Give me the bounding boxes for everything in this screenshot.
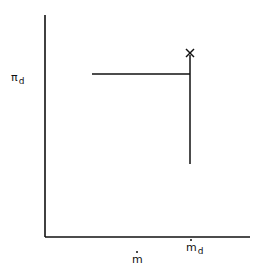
x-axis-label: m bbox=[132, 254, 143, 265]
x-tick-symbol: m bbox=[186, 242, 197, 253]
y-axis-symbol: π bbox=[11, 71, 18, 84]
diagram-canvas bbox=[0, 0, 260, 275]
x-tick-subscript: d bbox=[198, 246, 204, 256]
y-axis-subscript: d bbox=[19, 76, 25, 86]
x-axis-symbol: m bbox=[132, 254, 143, 265]
y-axis-label: πd bbox=[11, 72, 24, 83]
x-tick-label: md bbox=[186, 242, 203, 253]
